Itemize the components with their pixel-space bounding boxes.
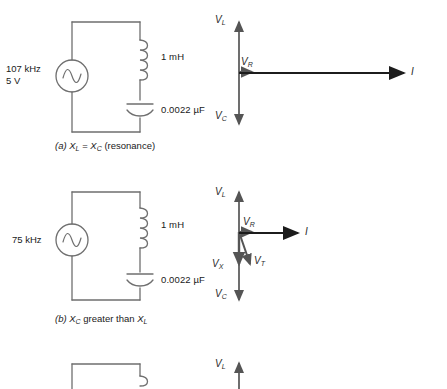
phasor-label-vl-a: VL xyxy=(215,14,226,26)
caption-a-equals: = xyxy=(82,140,88,151)
phasor-vt-b xyxy=(239,232,250,264)
source-frequency-b: 75 kHz xyxy=(12,234,42,245)
phasor-label-vt-b: VT xyxy=(254,255,265,267)
capacitor-label-b: 0.0022 µF xyxy=(161,274,205,285)
phasor-label-vl-b: VL xyxy=(215,186,226,198)
phasor-diagram-b xyxy=(239,192,298,300)
phasor-label-vr-b: VR xyxy=(243,216,255,228)
caption-b-xl-sub: L xyxy=(144,318,148,325)
phasor-label-vx-b: VX xyxy=(212,258,223,270)
caption-b: (b) XC greater than XL xyxy=(55,313,147,325)
source-label-a: 107 kHz 5 V xyxy=(6,63,41,87)
phasor-label-vc-a: VC xyxy=(215,110,227,122)
phasor-label-vl-c: VL xyxy=(215,358,226,370)
capacitor-label-a: 0.0022 µF xyxy=(161,104,205,115)
circuit-a xyxy=(56,22,153,132)
phasor-diagram-a xyxy=(239,22,404,124)
caption-a-xl-sub: L xyxy=(76,145,80,152)
phasor-label-vc-b: VC xyxy=(215,288,227,300)
inductor-label-b: 1 mH xyxy=(161,219,184,230)
caption-a-tail: (resonance) xyxy=(104,140,155,151)
circuit-b xyxy=(56,192,153,300)
phasor-label-vr-a: VR xyxy=(241,56,253,68)
caption-b-mid: greater than xyxy=(83,313,134,324)
source-frequency-a: 107 kHz xyxy=(6,63,41,74)
phasor-label-i-b: I xyxy=(305,226,308,237)
source-label-b: 75 kHz xyxy=(12,234,42,246)
caption-a: (a) XL = XC (resonance) xyxy=(55,140,155,152)
caption-a-prefix: (a) xyxy=(55,140,67,151)
circuit-c-clipped xyxy=(72,364,148,389)
source-voltage-a: 5 V xyxy=(6,75,20,86)
caption-b-xc-sub: C xyxy=(76,318,81,325)
phasor-label-i-a: I xyxy=(411,66,414,77)
inductor-label-a: 1 mH xyxy=(161,51,184,62)
caption-b-prefix: (b) xyxy=(55,313,67,324)
figure-series-rlc-resonance: 107 kHz 5 V 1 mH 0.0022 µF (a) XL = XC (… xyxy=(0,0,447,389)
caption-a-xc-sub: C xyxy=(97,145,102,152)
